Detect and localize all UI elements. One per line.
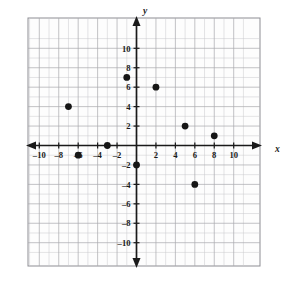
plot-background: [28, 18, 260, 266]
data-point: [65, 103, 72, 110]
x-tick-label: –2: [112, 150, 122, 160]
x-tick-label: –10: [32, 150, 46, 160]
y-tick-label: –2: [121, 160, 131, 170]
y-tick-label: 4: [126, 102, 131, 112]
x-axis-label: x: [274, 144, 280, 154]
data-point: [211, 132, 218, 139]
scatter-plot-svg: –10–8–6–4–2246810 108642–2–4–6–8–10 x y: [0, 0, 288, 293]
x-tick-label: –8: [53, 150, 63, 160]
y-tick-label: –4: [121, 180, 131, 190]
data-point: [182, 123, 189, 130]
x-tick-label: 6: [193, 150, 198, 160]
data-point: [75, 152, 82, 159]
y-tick-label: 10: [122, 44, 131, 54]
data-point: [123, 74, 130, 81]
y-tick-label: –10: [117, 238, 131, 248]
x-tick-label: 10: [229, 150, 238, 160]
data-point: [153, 84, 160, 91]
data-point: [133, 162, 140, 169]
y-tick-label: –8: [121, 218, 131, 228]
y-tick-label: 2: [126, 121, 130, 131]
y-tick-label: 6: [126, 82, 131, 92]
y-tick-label: –6: [121, 199, 131, 209]
data-point: [104, 142, 111, 149]
y-tick-label: 8: [126, 63, 131, 73]
x-tick-label: 2: [154, 150, 158, 160]
y-axis-label: y: [142, 6, 148, 16]
x-tick-label: –4: [92, 150, 102, 160]
coordinate-plane-graph: –10–8–6–4–2246810 108642–2–4–6–8–10 x y: [0, 0, 288, 293]
x-tick-label: 4: [173, 150, 178, 160]
data-point: [191, 181, 198, 188]
x-tick-label: 8: [212, 150, 217, 160]
